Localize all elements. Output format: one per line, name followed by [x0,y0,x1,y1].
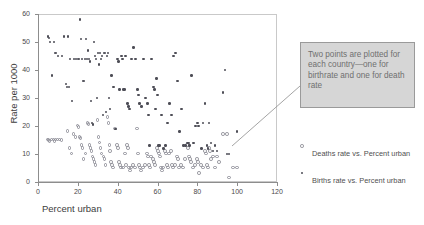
data-point-death-rate [206,166,210,170]
data-point-death-rate [107,121,111,125]
data-point-birth-rate [90,100,92,102]
data-point-birth-rate [140,105,142,107]
data-point-death-rate [82,157,86,161]
data-point-birth-rate [184,144,186,146]
data-point-birth-rate [150,58,152,60]
data-point-birth-rate [142,58,144,60]
y-tick-label: 50 [10,38,30,46]
data-point-death-rate [217,160,221,164]
data-point-birth-rate [188,144,190,146]
data-point-death-rate [139,169,143,173]
data-point-death-rate [116,146,120,150]
data-point-birth-rate [121,58,123,60]
data-point-birth-rate [71,100,73,102]
data-point-death-rate [183,157,187,161]
y-tick [35,70,39,71]
data-point-death-rate [87,122,91,126]
data-point-birth-rate [148,144,150,146]
data-point-birth-rate [118,88,120,90]
data-point-birth-rate [95,58,97,60]
annotation-text: Two points are plotted for each country—… [308,50,411,92]
y-tick [35,154,39,155]
data-point-death-rate [77,125,81,129]
y-tick [35,14,39,15]
x-tick [277,182,278,186]
data-point-death-rate [225,132,229,136]
data-point-birth-rate [69,58,71,60]
data-point-birth-rate [170,114,172,116]
data-point-birth-rate [136,88,138,90]
data-point-birth-rate [68,86,70,88]
data-point-birth-rate [178,130,180,132]
data-point-death-rate [158,155,162,159]
data-point-birth-rate [168,102,170,104]
data-point-death-rate [235,166,239,170]
x-tick-label: 80 [186,188,208,196]
data-point-death-rate [79,136,83,140]
data-point-birth-rate [108,97,110,99]
y-tick [35,126,39,127]
data-point-birth-rate [155,77,157,79]
data-point-birth-rate [123,88,125,90]
data-point-death-rate [169,149,173,153]
x-tick-label: 0 [27,188,49,196]
data-point-birth-rate [130,58,132,60]
data-point-birth-rate [164,144,166,146]
data-point-birth-rate [114,128,116,130]
data-point-birth-rate [146,102,148,104]
x-tick-label: 40 [107,188,129,196]
data-point-birth-rate [160,114,162,116]
data-point-death-rate [201,166,205,170]
data-point-birth-rate [92,123,94,125]
data-point-birth-rate [100,58,102,60]
data-point-death-rate [135,127,139,131]
data-point-birth-rate [120,55,122,57]
data-point-birth-rate [192,142,194,144]
scatter-plot-figure: 0102030405060 020406080100120 Rate per 1… [0,0,424,225]
data-point-birth-rate [162,147,164,149]
data-point-death-rate [106,115,110,119]
x-tick-label: 60 [147,188,169,196]
y-tick [35,98,39,99]
x-tick [237,182,238,186]
data-point-death-rate [108,143,112,147]
y-tick [35,42,39,43]
data-point-death-rate [176,157,180,161]
data-point-death-rate [68,146,72,150]
data-point-death-rate [160,169,164,173]
data-point-birth-rate [79,18,81,20]
data-point-birth-rate [112,86,114,88]
y-tick-label: 10 [10,150,30,158]
filled-dot-icon [301,172,303,174]
data-point-death-rate [227,176,231,180]
data-point-death-rate [197,171,201,175]
data-point-death-rate [215,155,219,159]
x-tick [118,182,119,186]
y-tick-label: 0 [10,178,30,186]
x-tick [197,182,198,186]
legend-item-deaths: Deaths rate vs. Percent urban [298,142,418,160]
data-point-birth-rate [63,35,65,37]
data-point-birth-rate [200,147,202,149]
data-point-birth-rate [67,35,69,37]
open-circle-icon [300,144,304,148]
y-tick-label: 60 [10,10,30,18]
data-point-birth-rate [190,74,192,76]
data-point-birth-rate [134,58,136,60]
data-point-birth-rate [110,74,112,76]
data-point-death-rate [96,118,100,122]
data-point-birth-rate [106,55,108,57]
x-tick [158,182,159,186]
data-point-birth-rate [197,125,199,127]
x-axis-title: Percent urban [42,203,102,214]
data-point-death-rate [81,146,85,150]
data-point-death-rate [213,166,217,170]
legend-label-births: Births rate vs. Percent urban [312,176,406,185]
data-point-birth-rate [102,114,104,116]
y-axis-title: Rate per 1000 [8,59,19,129]
data-point-birth-rate [153,88,155,90]
data-point-birth-rate [144,97,146,99]
data-point-death-rate [90,149,94,153]
data-point-death-rate [126,146,130,150]
data-point-birth-rate [98,63,100,65]
